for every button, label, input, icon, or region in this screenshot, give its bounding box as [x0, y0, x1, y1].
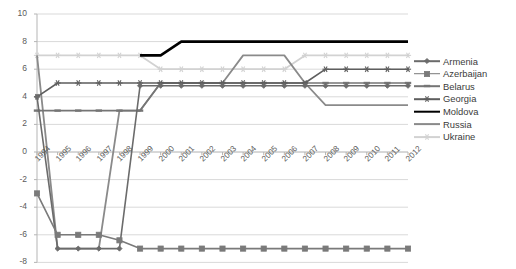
legend-swatch [414, 132, 440, 142]
data-point-marker [76, 232, 81, 237]
series-line [37, 55, 408, 69]
legend-label: Moldova [443, 107, 478, 116]
data-point-marker [55, 232, 60, 237]
legend-marker [422, 81, 432, 91]
legend-swatch [414, 56, 440, 66]
legend-label: Russia [443, 120, 472, 129]
y-tick-label: 0 [5, 146, 27, 156]
data-point-marker [137, 246, 142, 251]
y-tick-label: 8 [5, 36, 27, 46]
legend-label: Georgia [443, 94, 476, 103]
data-point-marker [220, 246, 225, 251]
legend-swatch [414, 69, 440, 79]
chart-legend: ArmeniaAzerbaijanBelarusGeorgiaMoldovaRu… [414, 55, 514, 143]
legend-label: Belarus [443, 82, 475, 91]
data-point-marker [76, 246, 81, 251]
legend-label: Ukraine [443, 132, 475, 141]
legend-swatch [414, 81, 440, 91]
y-tick-label: 2 [5, 118, 27, 128]
legend-label: Azerbaijan [443, 69, 487, 78]
legend-item-ukraine[interactable]: Ukraine [414, 131, 514, 144]
legend-item-russia[interactable]: Russia [414, 118, 514, 131]
legend-swatch [414, 119, 440, 129]
legend-item-armenia[interactable]: Armenia [414, 55, 514, 68]
data-point-marker [117, 246, 122, 251]
data-point-marker [364, 246, 369, 251]
data-point-marker [34, 191, 39, 196]
data-point-marker [117, 238, 122, 243]
legend-marker [422, 56, 432, 66]
data-point-marker [424, 59, 429, 64]
y-tick-label: 4 [5, 91, 27, 101]
legend-item-belarus[interactable]: Belarus [414, 80, 514, 93]
data-point-marker [199, 246, 204, 251]
data-point-marker [424, 71, 429, 76]
data-point-marker [241, 246, 246, 251]
data-point-marker [323, 246, 328, 251]
series-armenia [34, 83, 410, 251]
legend-marker [422, 94, 432, 104]
legend-swatch [414, 94, 440, 104]
series-azerbaijan [34, 191, 410, 251]
y-tick-label: 6 [5, 63, 27, 73]
y-tick-label: -6 [5, 229, 27, 239]
data-point-marker [282, 246, 287, 251]
legend-marker [422, 69, 432, 79]
series-line [37, 193, 408, 248]
data-point-marker [405, 246, 410, 251]
data-point-marker [96, 246, 101, 251]
data-point-marker [179, 246, 184, 251]
data-point-marker [137, 83, 142, 88]
data-point-marker [261, 246, 266, 251]
data-point-marker [302, 246, 307, 251]
legend-item-moldova[interactable]: Moldova [414, 105, 514, 118]
data-point-marker [158, 246, 163, 251]
y-tick-label: -8 [5, 256, 27, 266]
legend-label: Armenia [443, 57, 478, 66]
data-point-marker [385, 246, 390, 251]
legend-marker [422, 132, 432, 142]
data-point-marker [344, 246, 349, 251]
legend-item-azerbaijan[interactable]: Azerbaijan [414, 68, 514, 81]
y-tick-label: -2 [5, 174, 27, 184]
legend-swatch [414, 107, 440, 117]
line-chart: 1086420-2-4-6-8 199419951996199719981999… [0, 0, 516, 269]
y-tick-label: -4 [5, 201, 27, 211]
legend-item-georgia[interactable]: Georgia [414, 93, 514, 106]
data-point-marker [55, 246, 60, 251]
y-tick-label: 10 [5, 8, 27, 18]
data-point-marker [96, 232, 101, 237]
